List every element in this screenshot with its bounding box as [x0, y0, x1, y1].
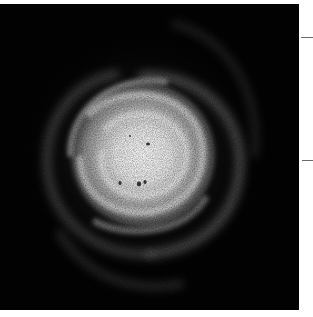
galaxy-photo — [0, 4, 299, 310]
film-grain — [0, 4, 299, 310]
margin-mark-top — [301, 37, 313, 38]
margin-mark-middle — [302, 160, 313, 161]
spiral-galaxy — [0, 4, 299, 310]
